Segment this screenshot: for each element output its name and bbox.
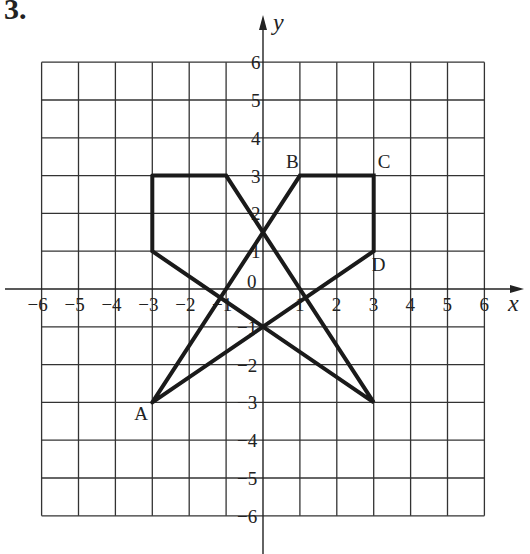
x-tick-label: 2 xyxy=(332,294,342,315)
y-tick-label: −5 xyxy=(237,468,257,489)
x-tick-label: −4 xyxy=(101,294,122,315)
y-tick-label: 6 xyxy=(251,52,261,73)
x-tick-label: 6 xyxy=(479,294,489,315)
point-label-a: A xyxy=(134,403,148,424)
y-tick-label: −6 xyxy=(237,506,257,527)
x-tick-label: 4 xyxy=(406,294,416,315)
point-label-b: B xyxy=(286,151,299,172)
x-tick-label: −3 xyxy=(138,294,158,315)
y-axis-label: y xyxy=(271,9,284,35)
point-label-d: D xyxy=(372,254,386,275)
y-tick-label: 4 xyxy=(251,128,261,149)
y-axis-arrow-icon xyxy=(259,15,267,30)
y-tick-label: −3 xyxy=(237,392,257,413)
point-label-c: C xyxy=(378,151,391,172)
x-tick-label: 5 xyxy=(443,294,453,315)
y-tick-label: 5 xyxy=(251,90,261,111)
x-axis-label: x xyxy=(507,290,519,316)
axes: xy xyxy=(5,9,524,554)
x-tick-label: −6 xyxy=(28,294,48,315)
x-tick-label: −2 xyxy=(175,294,195,315)
x-tick-label: 3 xyxy=(369,294,379,315)
x-tick-label: −5 xyxy=(65,294,85,315)
y-tick-label: −4 xyxy=(237,430,258,451)
coordinate-plane: xy −6−5−4−3−2−11234566543210−1−2−3−4−5−6… xyxy=(0,0,530,554)
y-tick-label: 3 xyxy=(251,166,261,187)
y-tick-label: 0 xyxy=(247,271,257,292)
y-tick-label: −2 xyxy=(237,355,257,376)
